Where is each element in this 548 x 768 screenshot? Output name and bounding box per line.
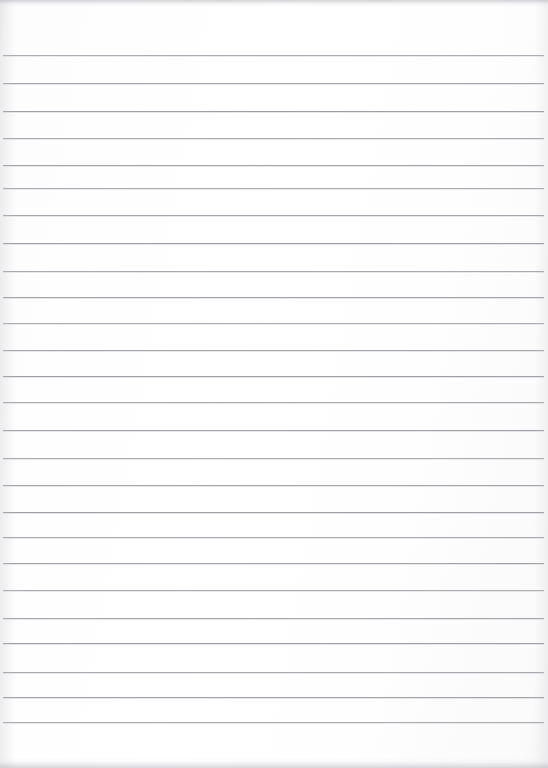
writing-area[interactable] — [0, 0, 548, 768]
scanned-page — [0, 0, 548, 768]
